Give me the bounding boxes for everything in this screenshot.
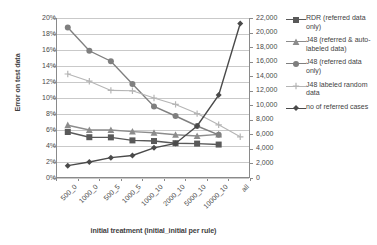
data-point [65, 71, 71, 77]
data-point [86, 134, 92, 140]
data-point [172, 101, 178, 107]
y-axis-left-tick-label: 8% [16, 110, 56, 117]
chart-legend: RDR (referred data only)J48 (referred & … [286, 14, 377, 119]
y-axis-left-tick-label: 4% [16, 142, 56, 149]
legend-marker-triangle-icon [286, 36, 306, 47]
data-point [86, 159, 92, 165]
legend-label: RDR (referred data only) [306, 14, 377, 31]
data-point [108, 58, 114, 64]
y-axis-right-tick-label: 6,000 [256, 130, 302, 137]
legend-label: J48 (referred data only) [306, 58, 377, 75]
data-point [129, 137, 135, 143]
x-axis-title: initial treatment (initial_initial per r… [56, 226, 251, 235]
data-point [86, 48, 92, 54]
y-axis-right-tick-label: 4,000 [256, 144, 302, 151]
data-point [108, 155, 114, 161]
data-point [108, 134, 114, 140]
legend-item[interactable]: RDR (referred data only) [286, 14, 377, 31]
gridline [57, 178, 249, 179]
data-point [237, 20, 243, 26]
data-point [64, 122, 71, 129]
y-axis-right-tick-label: 0 [256, 174, 302, 181]
y-axis-right-tick-label: 2,000 [256, 159, 302, 166]
data-point [129, 81, 135, 87]
y-axis-left-tick-label: 6% [16, 126, 56, 133]
data-point [129, 152, 135, 158]
x-axis-tickmark [250, 178, 251, 181]
data-point [194, 110, 200, 116]
data-point [65, 25, 71, 31]
plot-area [56, 18, 250, 178]
legend-marker-circle-icon [286, 58, 306, 69]
data-point [215, 122, 221, 128]
data-point [216, 142, 222, 148]
y-axis-left-tick-label: 20% [16, 14, 56, 21]
legend-item[interactable]: J48 labeled random data [286, 81, 377, 98]
legend-item[interactable]: no of referred cases [286, 103, 377, 114]
legend-marker-square-icon [286, 14, 306, 25]
y-axis-left-tick-label: 2% [16, 158, 56, 165]
legend-marker-plus-icon [286, 81, 306, 92]
data-point [108, 87, 114, 93]
legend-label: J48 labeled random data [306, 81, 377, 98]
y-axis-left-tick-label: 12% [16, 78, 56, 85]
data-point [151, 103, 157, 109]
legend-label: J48 (referred & auto-labeled data) [306, 36, 377, 53]
data-point [65, 163, 71, 169]
data-point [237, 134, 243, 140]
y-axis-left-tick-label: 14% [16, 62, 56, 69]
y-axis-left-tick-label: 18% [16, 30, 56, 37]
data-point [194, 141, 200, 147]
data-point [65, 129, 71, 135]
data-point [151, 95, 157, 101]
legend-marker-diamond-icon [286, 103, 306, 114]
legend-item[interactable]: J48 (referred & auto-labeled data) [286, 36, 377, 53]
legend-item[interactable]: J48 (referred data only) [286, 58, 377, 75]
legend-label: no of referred cases [306, 103, 377, 112]
series-layer [57, 18, 251, 178]
data-point [151, 138, 157, 144]
data-point [216, 132, 222, 138]
data-point [173, 113, 179, 119]
data-point [129, 88, 135, 94]
data-point [86, 78, 92, 84]
data-point [151, 145, 157, 151]
chart-container: Error on test data initial treatment (in… [0, 0, 377, 245]
y-axis-left-tick-label: 0% [16, 174, 56, 181]
y-axis-left-tick-label: 10% [16, 94, 56, 101]
y-axis-left-tick-label: 16% [16, 46, 56, 53]
